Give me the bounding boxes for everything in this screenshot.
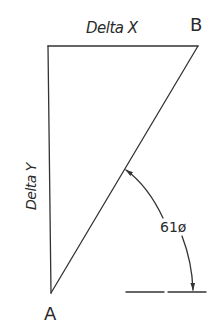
hypotenuse-edge bbox=[51, 46, 198, 293]
angle-arc-upper bbox=[126, 170, 163, 218]
delta-x-label: Delta X bbox=[86, 19, 139, 37]
triangle-diagram: Delta X B Delta Y 61ø A bbox=[0, 0, 217, 336]
vertex-a-label: A bbox=[44, 303, 57, 324]
angle-arc-lower bbox=[182, 236, 193, 290]
delta-y-label: Delta Y bbox=[23, 161, 39, 210]
delta-y-edge bbox=[48, 46, 51, 293]
angle-label: 61ø bbox=[160, 219, 187, 235]
vertex-b-label: B bbox=[190, 14, 202, 35]
